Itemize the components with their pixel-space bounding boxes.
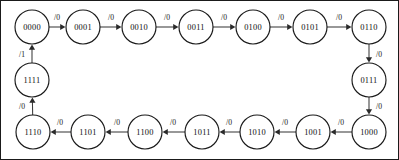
arrowhead-icon bbox=[173, 24, 178, 30]
state-label: 0110 bbox=[360, 23, 377, 32]
arrowhead-icon bbox=[331, 129, 336, 135]
state-node-0111[interactable]: 0111 bbox=[352, 63, 386, 97]
transition-output-label: /1 bbox=[19, 50, 25, 59]
transition-s7-to-s8: /0 bbox=[366, 97, 382, 114]
state-label: 0010 bbox=[130, 23, 148, 32]
transition-s11-to-s12: /0 bbox=[163, 118, 185, 136]
arrowhead-icon bbox=[346, 24, 351, 30]
state-node-0010[interactable]: 0010 bbox=[122, 10, 156, 44]
transition-output-label: /0 bbox=[278, 13, 284, 22]
state-node-1001[interactable]: 1001 bbox=[296, 115, 330, 149]
transition-s3-to-s4: /0 bbox=[213, 13, 235, 31]
transition-s12-to-s13: /0 bbox=[106, 118, 128, 136]
fsm-diagram: /0/0/0/0/0/0/0/0/0/0/0/0/0/0/0/1 0000000… bbox=[0, 0, 399, 160]
transition-s2-to-s3: /0 bbox=[156, 13, 178, 31]
state-label: 0100 bbox=[244, 23, 262, 32]
arrowhead-icon bbox=[366, 57, 372, 62]
transition-s10-to-s11: /0 bbox=[220, 118, 240, 136]
state-node-0110[interactable]: 0110 bbox=[352, 10, 386, 44]
state-diagram-canvas: /0/0/0/0/0/0/0/0/0/0/0/0/0/0/0/1 0000000… bbox=[0, 0, 399, 160]
transition-output-label: /0 bbox=[336, 13, 342, 22]
state-node-0101[interactable]: 0101 bbox=[293, 10, 327, 44]
state-node-0011[interactable]: 0011 bbox=[179, 10, 213, 44]
transition-output-label: /0 bbox=[114, 118, 120, 127]
arrowhead-icon bbox=[366, 109, 372, 114]
arrowhead-icon bbox=[220, 129, 225, 135]
state-node-0000[interactable]: 0000 bbox=[15, 10, 49, 44]
state-label: 1111 bbox=[24, 76, 41, 85]
state-node-1111[interactable]: 1111 bbox=[15, 63, 49, 97]
transition-s4-to-s5: /0 bbox=[270, 13, 292, 31]
state-label: 0001 bbox=[74, 23, 92, 32]
state-layer: 0000000100100011010001010110011110001001… bbox=[15, 10, 386, 149]
transition-output-label: /0 bbox=[376, 102, 382, 111]
state-label: 0011 bbox=[187, 23, 204, 32]
state-node-1000[interactable]: 1000 bbox=[352, 115, 386, 149]
transition-output-label: /0 bbox=[108, 13, 114, 22]
arrowhead-icon bbox=[275, 129, 280, 135]
state-label: 0000 bbox=[23, 23, 41, 32]
state-node-0100[interactable]: 0100 bbox=[236, 10, 270, 44]
transition-output-label: /0 bbox=[57, 118, 63, 127]
transition-output-label: /0 bbox=[19, 102, 25, 111]
state-label: 1100 bbox=[136, 128, 153, 137]
state-label: 1001 bbox=[304, 128, 322, 137]
transition-s15-to-s0: /1 bbox=[19, 45, 35, 63]
state-label: 1010 bbox=[248, 128, 266, 137]
state-node-1010[interactable]: 1010 bbox=[240, 115, 274, 149]
transition-s8-to-s9: /0 bbox=[331, 118, 352, 136]
transition-s1-to-s2: /0 bbox=[100, 13, 121, 31]
state-node-1110[interactable]: 1110 bbox=[16, 115, 50, 149]
state-label: 0111 bbox=[360, 76, 377, 85]
transition-s13-to-s14: /0 bbox=[51, 118, 71, 136]
transition-output-label: /0 bbox=[164, 13, 170, 22]
state-node-0001[interactable]: 0001 bbox=[66, 10, 100, 44]
transition-output-label: /0 bbox=[221, 13, 227, 22]
state-label: 1000 bbox=[360, 128, 378, 137]
arrowhead-icon bbox=[163, 129, 168, 135]
transition-s0-to-s1: /0 bbox=[49, 13, 65, 31]
state-label: 1011 bbox=[193, 128, 210, 137]
transition-output-label: /0 bbox=[226, 118, 232, 127]
arrowhead-icon bbox=[29, 45, 35, 50]
transition-output-label: /0 bbox=[170, 118, 176, 127]
arrowhead-icon bbox=[29, 98, 35, 103]
transition-s5-to-s6: /0 bbox=[327, 13, 351, 31]
state-node-1100[interactable]: 1100 bbox=[128, 115, 162, 149]
transition-output-label: /0 bbox=[282, 118, 288, 127]
state-node-1011[interactable]: 1011 bbox=[185, 115, 219, 149]
arrowhead-icon bbox=[106, 129, 111, 135]
arrowhead-icon bbox=[51, 129, 56, 135]
arrowhead-icon bbox=[116, 24, 121, 30]
arrowhead-icon bbox=[287, 24, 292, 30]
arrowhead-icon bbox=[60, 24, 65, 30]
state-node-1101[interactable]: 1101 bbox=[71, 115, 105, 149]
state-label: 0101 bbox=[301, 23, 319, 32]
state-label: 1101 bbox=[79, 128, 96, 137]
transition-output-label: /0 bbox=[54, 13, 60, 22]
transition-s9-to-s10: /0 bbox=[275, 118, 296, 136]
arrowhead-icon bbox=[230, 24, 235, 30]
transition-s14-to-s15: /0 bbox=[19, 98, 35, 115]
state-label: 1110 bbox=[24, 128, 41, 137]
transition-output-label: /0 bbox=[338, 118, 344, 127]
transition-output-label: /0 bbox=[376, 50, 382, 59]
transition-s6-to-s7: /0 bbox=[366, 44, 382, 62]
